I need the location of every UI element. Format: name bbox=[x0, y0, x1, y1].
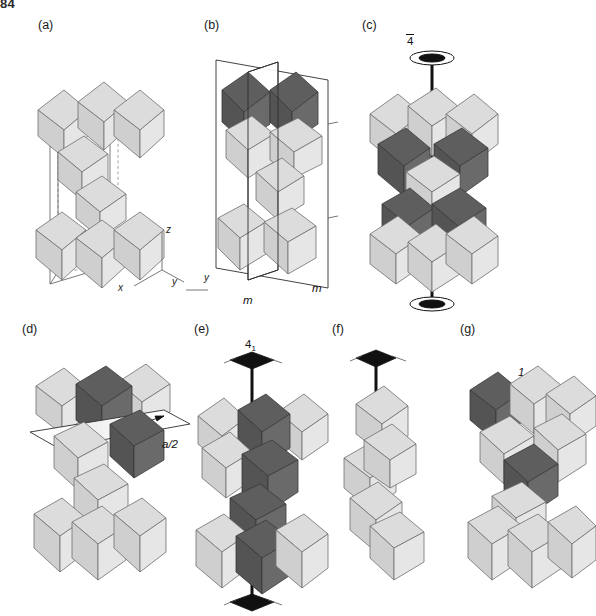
octahedra-lower bbox=[468, 482, 596, 588]
octahedra-bottom bbox=[34, 498, 166, 580]
panel-d-graphic bbox=[14, 336, 189, 606]
panel-b: (b) bbox=[186, 14, 346, 314]
panel-e: (e) 41 bbox=[190, 318, 335, 613]
axis-label-y: y bbox=[172, 276, 177, 287]
panel-b-axis-label-y: y bbox=[204, 272, 209, 283]
panel-g: (g) 1 bbox=[456, 318, 596, 608]
panel-b-graphic bbox=[186, 32, 346, 322]
panel-e-graphic bbox=[190, 336, 335, 616]
axis-label-z: z bbox=[166, 224, 171, 235]
panel-g-graphic bbox=[456, 336, 596, 604]
screw-axis-symbol-top bbox=[224, 352, 282, 369]
screw-axis-symbol-bottom bbox=[224, 594, 282, 611]
mirror-label-right: m bbox=[312, 282, 322, 294]
octahedra-chain bbox=[344, 386, 424, 580]
panel-b-label: (b) bbox=[204, 18, 219, 32]
panel-f-graphic bbox=[328, 336, 458, 606]
glide-translation-label: a/2 bbox=[162, 438, 178, 450]
rotation-axis-symbol bbox=[350, 350, 406, 367]
mirror-label-left: m bbox=[243, 294, 253, 306]
panel-f: (f) bbox=[328, 318, 458, 608]
rotoinversion-symbol-bottom bbox=[410, 297, 454, 311]
octahedra-bottom bbox=[370, 216, 498, 292]
panel-e-label: (e) bbox=[194, 322, 209, 336]
octahedra-top-row bbox=[38, 82, 164, 158]
panel-d: (d) bbox=[14, 318, 189, 608]
panel-a-graphic bbox=[14, 32, 184, 312]
octahedra-light-chain bbox=[226, 116, 322, 220]
panel-d-label: (d) bbox=[22, 322, 37, 336]
panel-a: (a) bbox=[14, 14, 184, 304]
page-header: 84 bbox=[0, 0, 15, 11]
panel-f-label: (f) bbox=[332, 322, 344, 336]
rotoinversion-symbol-top bbox=[410, 51, 454, 65]
panel-c-graphic bbox=[352, 32, 527, 322]
panel-a-label: (a) bbox=[38, 18, 53, 32]
octahedra-bottom bbox=[196, 514, 328, 594]
panel-g-label: (g) bbox=[460, 322, 475, 336]
panel-c: (c) 4 bbox=[352, 14, 527, 314]
panel-c-label: (c) bbox=[362, 18, 377, 32]
figure-canvas: 84 (a) bbox=[0, 0, 596, 616]
axis-label-x: x bbox=[118, 282, 123, 293]
